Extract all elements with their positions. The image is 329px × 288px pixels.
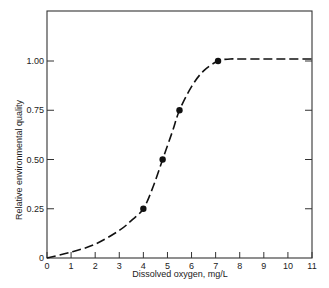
x-tick-label: 11 (307, 261, 316, 271)
x-tick-label: 2 (93, 261, 98, 271)
y-tick-label: 0.50 (26, 155, 44, 165)
chart: 01234567891011 00.250.500.751.00 Dissolv… (0, 0, 329, 288)
data-point (159, 156, 165, 162)
x-tick-label: 1 (69, 261, 74, 271)
data-point (176, 107, 182, 113)
x-tick-label: 0 (44, 261, 49, 271)
x-axis-title: Dissolved oxygen, mg/L (132, 269, 228, 279)
x-tick-label: 9 (261, 261, 266, 271)
y-axis-title: Relative environmental quality (14, 99, 24, 220)
dashed-curve (47, 59, 312, 258)
data-point (140, 206, 146, 212)
x-tick-label: 10 (283, 261, 293, 271)
y-tick-label: 1.00 (26, 56, 44, 66)
plot-frame (47, 11, 312, 258)
x-tick-label: 3 (117, 261, 122, 271)
y-axis: 00.250.500.751.00 (26, 56, 312, 263)
y-tick-label: 0.75 (26, 105, 44, 115)
data-point (215, 58, 221, 64)
x-tick-label: 8 (237, 261, 242, 271)
y-tick-label: 0.25 (26, 204, 44, 214)
y-tick-label: 0 (39, 253, 44, 263)
